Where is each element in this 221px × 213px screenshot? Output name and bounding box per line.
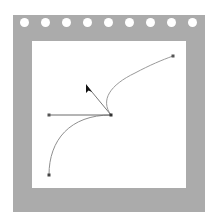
- anchor-point[interactable]: [110, 114, 113, 117]
- lower-curve: [49, 115, 111, 175]
- bezier-path-illustration: [0, 0, 221, 213]
- upper-curve: [107, 56, 173, 115]
- end-point[interactable]: [172, 55, 175, 58]
- start-point[interactable]: [48, 174, 51, 177]
- handle-endpoint-left[interactable]: [48, 114, 51, 117]
